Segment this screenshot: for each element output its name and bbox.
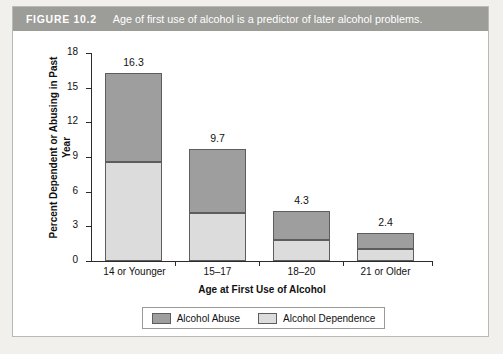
y-tick-label-18: 18 [67,46,78,57]
y-tick-15: 15 [86,88,91,89]
y-tick-label-15: 15 [67,81,78,92]
figure-root: FIGURE 10.2 Age of first use of alcohol … [0,0,503,354]
bar-21-or-older[interactable]: 2.4 [357,233,414,261]
x-category-label-3: 18–20 [254,266,349,277]
bar-total-label: 9.7 [189,132,246,144]
bar-segment-abuse[interactable] [105,73,162,162]
legend-label: Alcohol Dependence [283,313,375,324]
y-tick-0: 0 [86,261,91,262]
legend-label: Alcohol Abuse [177,313,240,324]
bar-total-label: 2.4 [357,216,414,228]
bar-15-17[interactable]: 9.7 [189,149,246,261]
y-tick-6: 6 [86,192,91,193]
chart-area: Percent Dependent or Abusing in Past Yea… [13,31,488,336]
legend-swatch-icon [152,313,171,324]
plot-region: 0 3 6 9 12 15 18 [91,53,421,261]
bar-segment-dependence[interactable] [105,162,162,261]
bar-segment-dependence[interactable] [357,249,414,261]
bar-segment-dependence[interactable] [273,240,330,261]
y-tick-18: 18 [86,53,91,54]
bar-segment-dependence[interactable] [189,213,246,262]
y-tick-label-0: 0 [72,254,78,265]
bar-14-or-younger[interactable]: 16.3 [105,73,162,261]
figure-caption-bar: FIGURE 10.2 Age of first use of alcohol … [13,7,488,31]
bar-total-label: 16.3 [105,56,162,68]
legend-swatch-icon [258,313,277,324]
y-tick-label-12: 12 [67,115,78,126]
y-axis-line [91,53,92,261]
x-category-label-4: 21 or Older [338,266,433,277]
figure-number: FIGURE 10.2 [26,13,97,25]
bar-18-20[interactable]: 4.3 [273,211,330,261]
bar-segment-abuse[interactable] [273,211,330,240]
y-tick-9: 9 [86,157,91,158]
figure-title: Age of first use of alcohol is a predict… [113,13,423,25]
legend-item-alcohol-abuse[interactable]: Alcohol Abuse [152,313,240,324]
x-category-label-1: 14 or Younger [87,266,182,277]
legend-item-alcohol-dependence[interactable]: Alcohol Dependence [258,313,375,324]
x-axis-line [91,261,433,262]
bar-segment-abuse[interactable] [357,233,414,249]
x-axis-title: Age at First Use of Alcohol [91,284,433,295]
y-tick-label-3: 3 [72,219,78,230]
y-tick-label-6: 6 [72,185,78,196]
y-tick-label-9: 9 [72,150,78,161]
y-tick-3: 3 [86,226,91,227]
figure-card: FIGURE 10.2 Age of first use of alcohol … [12,6,489,337]
bar-segment-abuse[interactable] [189,149,246,213]
bar-total-label: 4.3 [273,194,330,206]
chart-legend: Alcohol Abuse Alcohol Dependence [142,307,385,329]
y-tick-12: 12 [86,122,91,123]
x-category-label-2: 15–17 [170,266,265,277]
